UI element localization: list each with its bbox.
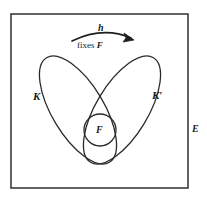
label-inner-circle-F: F bbox=[96, 125, 103, 135]
label-map-caption-italic: F bbox=[97, 40, 103, 50]
label-map-caption-plain: fixes bbox=[77, 40, 97, 50]
label-left-ellipse-K: K bbox=[33, 91, 40, 102]
figure-root: K K′ F E h fixes F bbox=[0, 0, 207, 202]
label-right-ellipse-K-prime: K′ bbox=[152, 90, 162, 101]
label-map-h: h bbox=[98, 23, 104, 33]
label-outer-box-E: E bbox=[192, 124, 199, 134]
label-map-caption: fixes F bbox=[77, 41, 103, 50]
